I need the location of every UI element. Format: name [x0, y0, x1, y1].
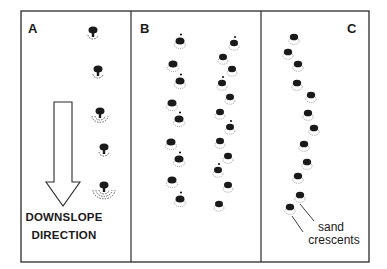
stone-feature: [229, 36, 239, 50]
downslope-arrow-icon: [46, 102, 80, 206]
panel-label-a: A: [28, 21, 37, 36]
annotation-line2: crescents: [304, 233, 364, 247]
arrow-caption-line2: DIRECTION: [24, 229, 104, 241]
stone-feature: [215, 138, 225, 148]
leader-line: [300, 204, 314, 221]
stone-feature: [92, 108, 108, 123]
features-layer: [88, 27, 319, 215]
stone-feature: [218, 54, 228, 64]
stone-feature: [283, 49, 293, 60]
stone-feature: [167, 99, 178, 110]
stone-feature: [175, 191, 186, 206]
annotation-line1: sand: [306, 220, 356, 234]
stone-feature: [93, 182, 115, 199]
stone-feature: [99, 144, 109, 157]
stone-feature: [213, 163, 223, 177]
stone-feature: [223, 153, 233, 163]
stone-feature: [93, 66, 103, 79]
stone-feature: [88, 27, 98, 40]
stone-feature: [292, 80, 302, 91]
stone-feature: [293, 173, 303, 184]
stone-feature: [223, 182, 233, 192]
stone-feature: [166, 138, 177, 149]
stone-feature: [285, 204, 295, 215]
stone-feature: [217, 76, 227, 90]
panel-label-b: B: [140, 21, 149, 36]
stone-feature: [289, 34, 299, 45]
stone-feature: [299, 141, 309, 152]
stone-feature: [214, 201, 224, 211]
stone-feature: [227, 66, 237, 76]
stone-feature: [302, 159, 312, 170]
stone-feature: [225, 120, 235, 134]
stone-feature: [167, 176, 178, 187]
stone-feature: [225, 94, 235, 104]
stone-feature: [295, 192, 305, 203]
stone-feature: [175, 33, 186, 48]
leader-line: [292, 216, 303, 232]
stone-feature: [303, 110, 313, 121]
stone-feature: [174, 151, 185, 166]
stone-feature: [293, 61, 303, 72]
stone-feature: [306, 92, 316, 103]
panel-label-c: C: [347, 21, 356, 36]
stone-feature: [215, 109, 225, 119]
stone-feature: [175, 73, 186, 88]
stone-feature: [168, 60, 179, 71]
stone-feature: [174, 111, 185, 126]
stone-feature: [309, 125, 319, 136]
arrow-caption-line1: DOWNSLOPE: [24, 211, 104, 223]
